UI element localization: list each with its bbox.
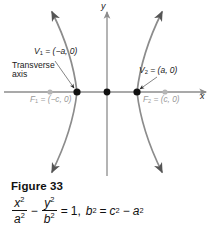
vertex2-dot xyxy=(133,88,140,95)
y-axis-label-text: y xyxy=(101,1,106,11)
exp-x: 2 xyxy=(20,195,24,204)
vertex2-label: V2 = (a, 0) xyxy=(139,66,177,76)
constant-one: 1 xyxy=(71,204,78,218)
vertex1-label-sub: 1 xyxy=(40,50,43,56)
exp-a-2: 2 xyxy=(139,206,143,215)
focus2-label: F2 = (c, 0) xyxy=(143,95,180,104)
var-b: b xyxy=(44,212,51,226)
transverse-axis-label: Transverse axis xyxy=(12,61,55,80)
equals-sign-2: = xyxy=(100,204,107,218)
transverse-axis-label-line2: axis xyxy=(12,70,55,79)
var-b-2: b xyxy=(86,204,93,218)
focus1-label: F1 = (−c, 0) xyxy=(30,95,71,104)
figure-title: Figure 33 xyxy=(11,180,211,192)
fraction-x-over-a: x2 a2 xyxy=(12,196,27,225)
minus-sign-2: − xyxy=(123,204,130,218)
vertex1-dot xyxy=(73,88,80,95)
fraction-y-over-b: y2 b2 xyxy=(42,196,57,225)
figure-caption: Figure 33 x2 a2 − y2 b2 = 1 , b2 = c2 − … xyxy=(11,180,211,225)
exp-a: 2 xyxy=(21,211,25,220)
vertex2-leader-line xyxy=(140,77,157,89)
exp-b: 2 xyxy=(51,211,55,220)
fraction-denominator-b: b2 xyxy=(42,210,57,225)
right-branch-upper xyxy=(137,12,162,92)
exp-b-2: 2 xyxy=(92,206,96,215)
vertex2-label-sub: 2 xyxy=(145,69,148,75)
focus2-label-value: = (c, 0) xyxy=(154,94,180,104)
focus1-label-sub: 1 xyxy=(35,98,38,104)
hyperbola-graph xyxy=(0,0,214,180)
fraction-numerator-x: x2 xyxy=(12,196,26,210)
fraction-denominator-a: a2 xyxy=(12,210,27,225)
vertex1-label-value: = (−a, 0) xyxy=(45,46,77,56)
exp-c: 2 xyxy=(116,206,120,215)
focus2-label-sub: 2 xyxy=(148,98,151,104)
hyperbola-svg xyxy=(0,0,214,180)
figure-33-container: y x V1 = (−a, 0) Transverse axis V2 = (a… xyxy=(0,0,214,229)
x-axis-label: x xyxy=(200,92,205,102)
y-axis-label: y xyxy=(101,2,106,12)
equals-sign-1: = xyxy=(61,204,68,218)
x-axis-label-text: x xyxy=(200,91,205,101)
focus1-label-value: = (−c, 0) xyxy=(41,94,72,104)
comma-separator: , xyxy=(77,204,80,218)
vertex2-label-value: = (a, 0) xyxy=(150,65,177,75)
exp-y: 2 xyxy=(50,195,54,204)
var-a-2: a xyxy=(133,204,140,218)
figure-equation: x2 a2 − y2 b2 = 1 , b2 = c2 − a2 xyxy=(11,196,211,225)
vertex1-label: V1 = (−a, 0) xyxy=(34,47,77,57)
fraction-numerator-y: y2 xyxy=(42,196,56,210)
var-a: a xyxy=(14,212,21,226)
center-dot xyxy=(104,89,111,96)
vertex1-leader-line xyxy=(55,61,74,88)
minus-sign-1: − xyxy=(31,204,38,218)
